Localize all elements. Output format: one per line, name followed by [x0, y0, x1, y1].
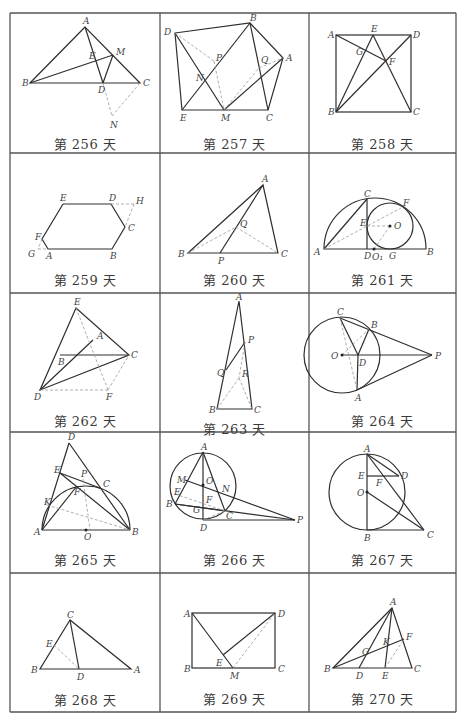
svg-text:B: B: [30, 665, 38, 675]
svg-text:A: A: [327, 30, 335, 40]
figure-caption: 第 259 天: [10, 270, 160, 289]
svg-text:E: E: [357, 471, 365, 481]
svg-text:D: D: [400, 471, 408, 481]
svg-text:M: M: [115, 47, 126, 57]
svg-text:P: P: [80, 469, 88, 479]
svg-text:E: E: [381, 671, 389, 681]
figure-day-263: AP QR BC 第 263 天: [160, 293, 309, 432]
figure-caption: 第 262 天: [10, 411, 160, 430]
svg-text:F: F: [105, 392, 113, 402]
svg-text:A: A: [285, 53, 293, 63]
svg-text:G: G: [193, 505, 200, 515]
svg-text:O: O: [394, 221, 402, 231]
svg-text:Q: Q: [217, 368, 225, 378]
geometry-diagram: AP QR BC: [160, 293, 309, 432]
svg-text:A: A: [261, 174, 269, 184]
svg-text:D: D: [67, 432, 75, 442]
figure-day-259: ED HC BA FG 第 259 天: [10, 153, 160, 293]
svg-text:C: C: [281, 249, 288, 259]
figure-caption: 第 260 天: [160, 270, 309, 289]
figure-caption: 第 269 天: [160, 689, 309, 708]
svg-text:G: G: [356, 47, 363, 57]
svg-text:G: G: [389, 251, 396, 261]
figure-day-265: DE PC FK AB O 第 265 天: [10, 432, 160, 573]
svg-text:E: E: [179, 113, 187, 123]
geometry-diagram: DB AC EM NP Q: [160, 13, 309, 153]
svg-text:C: C: [414, 664, 421, 674]
figure-caption: 第 270 天: [309, 689, 456, 708]
svg-text:N: N: [195, 73, 205, 83]
svg-text:F: F: [405, 632, 413, 642]
figure-day-256: AB CD EM N 第 256 天: [10, 13, 160, 153]
figure-caption: 第 265 天: [10, 550, 160, 569]
svg-text:E: E: [73, 297, 81, 307]
svg-text:O₁: O₁: [372, 252, 383, 262]
svg-text:P: P: [217, 256, 225, 266]
svg-text:D: D: [163, 27, 171, 37]
figure-day-266: AM ON EF BG CD P 第 266 天: [160, 432, 309, 573]
svg-text:D: D: [412, 30, 420, 40]
svg-text:M: M: [220, 113, 231, 123]
svg-text:C: C: [427, 530, 434, 540]
svg-text:A: A: [200, 442, 208, 452]
svg-text:E: E: [88, 51, 96, 61]
svg-text:P: P: [247, 335, 255, 345]
svg-text:E: E: [359, 218, 367, 228]
svg-text:Q: Q: [261, 55, 269, 65]
svg-text:N: N: [221, 484, 231, 494]
svg-text:P: P: [296, 515, 304, 525]
svg-text:G: G: [28, 249, 35, 259]
svg-text:A: A: [133, 665, 141, 675]
svg-text:B: B: [208, 405, 216, 415]
svg-text:F: F: [34, 232, 42, 242]
figure-caption: 第 261 天: [309, 270, 456, 289]
svg-text:A: A: [45, 251, 53, 261]
svg-text:A: A: [313, 247, 321, 257]
svg-text:B: B: [426, 247, 434, 257]
svg-text:D: D: [363, 251, 371, 261]
svg-text:B: B: [327, 107, 335, 117]
svg-text:P: P: [215, 53, 223, 63]
svg-text:C: C: [226, 511, 233, 521]
svg-text:B: B: [57, 357, 65, 367]
svg-text:F: F: [402, 198, 410, 208]
svg-text:O: O: [331, 351, 339, 361]
svg-text:F: F: [375, 478, 383, 488]
svg-text:N: N: [109, 120, 119, 130]
svg-text:D: D: [199, 523, 207, 533]
svg-text:C: C: [413, 107, 420, 117]
svg-text:C: C: [266, 113, 273, 123]
svg-text:C: C: [67, 610, 74, 620]
figure-caption: 第 256 天: [10, 134, 160, 153]
svg-text:K: K: [382, 637, 391, 647]
figure-caption: 第 264 天: [309, 411, 456, 430]
svg-text:A: A: [363, 444, 371, 454]
svg-text:H: H: [135, 196, 144, 206]
svg-text:D: D: [97, 85, 105, 95]
geometry-diagram: AD BC EF G: [309, 13, 456, 153]
svg-text:D: D: [76, 672, 84, 682]
figure-day-257: DB AC EM NP Q 第 257 天: [160, 13, 309, 153]
svg-text:C: C: [364, 189, 371, 199]
svg-text:C: C: [278, 664, 285, 674]
figure-day-267: AE DF OB C 第 267 天: [309, 432, 456, 573]
svg-text:B: B: [131, 527, 139, 537]
svg-text:R: R: [241, 369, 249, 379]
figure-day-269: AD BC EM 第 269 天: [160, 573, 309, 712]
svg-text:E: E: [45, 639, 53, 649]
geometry-diagram: AB CD EM N: [10, 13, 160, 153]
svg-text:M: M: [229, 671, 240, 681]
figure-day-258: AD BC EF G 第 258 天: [309, 13, 456, 153]
svg-text:C: C: [128, 223, 135, 233]
svg-text:B: B: [109, 251, 117, 261]
svg-text:C: C: [143, 78, 150, 88]
svg-text:A: A: [183, 609, 191, 619]
svg-text:B: B: [323, 664, 331, 674]
svg-text:O: O: [357, 488, 365, 498]
svg-text:A: A: [389, 597, 397, 607]
svg-text:P: P: [434, 351, 442, 361]
svg-text:F: F: [205, 495, 213, 505]
svg-text:A: A: [235, 292, 243, 302]
figure-day-261: CF EO AB DO₁ G 第 261 天: [309, 153, 456, 293]
svg-text:O: O: [84, 532, 92, 542]
